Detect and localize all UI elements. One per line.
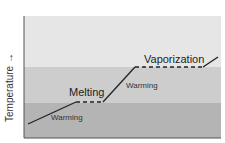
warming-solid-label: Warming — [51, 113, 83, 122]
melting-label: Melting — [69, 86, 104, 98]
liquid-band — [24, 67, 221, 103]
y-axis-label: Temperature → — [4, 53, 15, 122]
vaporization-label: Vaporization — [144, 53, 204, 65]
heating-curve-diagram — [0, 0, 225, 143]
warming-liquid-label: Warming — [126, 81, 158, 90]
